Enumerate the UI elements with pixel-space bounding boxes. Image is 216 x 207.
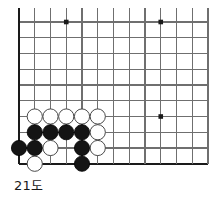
black-stone[interactable] — [27, 140, 42, 155]
stones-layer[interactable] — [11, 109, 105, 171]
white-stone[interactable] — [59, 109, 74, 124]
white-stone[interactable] — [27, 156, 42, 171]
black-stone[interactable] — [74, 125, 89, 140]
white-stone[interactable] — [90, 109, 105, 124]
white-stone[interactable] — [27, 109, 42, 124]
star-point — [158, 114, 163, 119]
black-stone[interactable] — [11, 140, 26, 155]
black-stone[interactable] — [43, 125, 58, 140]
white-stone[interactable] — [43, 140, 58, 155]
go-diagram-figure: 21도 — [0, 0, 216, 207]
white-stone[interactable] — [90, 140, 105, 155]
star-point — [64, 20, 69, 25]
grid-lines — [19, 8, 208, 164]
white-stone[interactable] — [90, 125, 105, 140]
go-board[interactable] — [0, 0, 216, 176]
star-point — [158, 20, 163, 25]
go-board-svg[interactable] — [0, 0, 216, 176]
black-stone[interactable] — [59, 125, 74, 140]
white-stone[interactable] — [74, 109, 89, 124]
black-stone[interactable] — [74, 140, 89, 155]
figure-caption: 21도 — [14, 178, 43, 194]
white-stone[interactable] — [43, 109, 58, 124]
black-stone[interactable] — [74, 156, 89, 171]
black-stone[interactable] — [27, 125, 42, 140]
